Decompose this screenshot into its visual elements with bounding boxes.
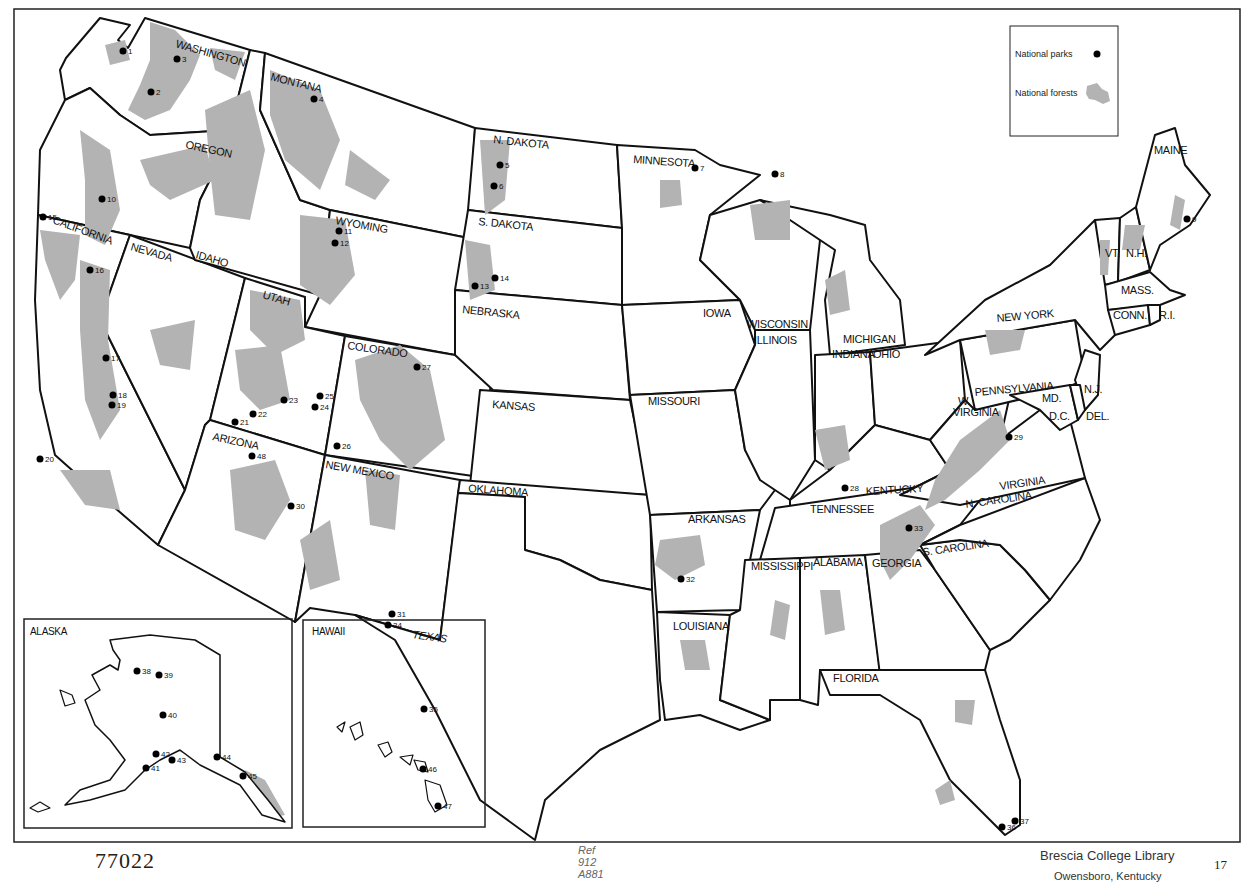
park-number: 30 [296,502,305,511]
park-dot-icon [174,56,181,63]
state-iowa [622,300,755,395]
park-number: 5 [505,161,510,170]
park-dot-icon [148,89,155,96]
park-dot-icon [334,443,341,450]
park-dot-icon [153,751,160,758]
ref-call-number: Ref 912 A881 [578,844,604,880]
label-indiana: INDIANA [832,348,875,360]
label-w-virginia-2: VIRGINIA [953,406,1000,418]
park-number: 26 [342,442,351,451]
park-number: 3 [182,55,187,64]
park-marker: 46 [420,765,438,774]
park-dot-icon [336,228,343,235]
park-number: 37 [1020,817,1029,826]
legend: National parks National forests [1010,26,1118,136]
park-dot-icon [311,96,318,103]
legend-forests-label: National forests [1015,88,1078,98]
park-number: 10 [107,195,116,204]
park-dot-icon [1184,216,1191,223]
label-missouri: MISSOURI [648,395,700,407]
park-number: 7 [700,164,705,173]
park-number: 4 [319,95,324,104]
park-dot-icon [103,355,110,362]
park-number: 15 [48,213,57,222]
label-hawaii: HAWAII [312,626,345,637]
park-number: 22 [258,410,267,419]
park-number: 45 [248,772,257,781]
park-dot-icon [87,267,94,274]
park-number: 34 [393,621,402,630]
alaska-inset: ALASKA [24,619,292,828]
park-dot-icon [999,824,1006,831]
park-dot-icon [497,162,504,169]
label-florida: FLORIDA [833,672,880,684]
label-mississippi: MISSISSIPPI [751,560,813,572]
park-number: 19 [117,401,126,410]
park-dot-icon [312,404,319,411]
park-number: 28 [850,484,859,493]
park-dot-icon [250,411,257,418]
park-number: 39 [164,671,173,680]
park-number: 20 [45,455,54,464]
park-dot-icon [420,766,427,773]
park-number: 1 [128,47,133,56]
park-dot-icon [288,503,295,510]
park-dot-icon [414,364,421,371]
park-dot-icon [99,196,106,203]
park-number: 29 [1014,433,1023,442]
park-dot-icon [109,402,116,409]
label-wisconsin: WISCONSIN [747,318,808,330]
park-number: 13 [480,282,489,291]
park-number: 17 [111,354,120,363]
park-dot-icon [678,576,685,583]
park-dot-icon [134,668,141,675]
park-dot-icon [472,283,479,290]
park-dot-icon [317,393,324,400]
state-alaska [65,635,285,822]
label-alaska: ALASKA [30,626,68,637]
label-massachusetts: MASS. [1121,284,1154,296]
park-dot-icon [240,773,247,780]
park-dot-icon [160,712,167,719]
park-number: 32 [686,575,695,584]
park-dot-icon [169,757,176,764]
library-city: Owensboro, Kentucky [1054,870,1162,882]
park-dot-icon [120,48,127,55]
park-number: 33 [914,524,923,533]
park-number: 27 [422,363,431,372]
state-florida [820,670,1020,835]
park-number: 12 [340,239,349,248]
page-number: 17 [1214,857,1227,873]
park-dot-icon [156,672,163,679]
park-number: 2 [156,88,161,97]
park-number: 35 [429,705,438,714]
label-dc: D.C. [1049,410,1070,422]
park-dot-icon [385,622,392,629]
label-iowa: IOWA [703,307,732,319]
park-dot-icon [772,171,779,178]
park-number: 21 [240,418,249,427]
park-dot-icon [492,275,499,282]
park-number: 18 [118,391,127,400]
park-marker: 43 [169,756,187,765]
label-new-jersey: N.J. [1084,383,1103,395]
park-number: 14 [500,274,509,283]
park-dot-icon [421,706,428,713]
park-dot-icon [1006,434,1013,441]
us-national-parks-forests-map: WASHINGTON OREGON CALIFORNIA NEVADA IDAH… [0,0,1256,894]
park-number: 8 [780,170,785,179]
park-number: 40 [168,711,177,720]
label-michigan: MICHIGAN [843,333,896,345]
park-number: 41 [151,764,160,773]
park-dot-icon [692,165,699,172]
park-number: 43 [177,756,186,765]
park-dot-icon [842,485,849,492]
park-number: 6 [499,182,504,191]
library-stamp: Brescia College Library [1040,848,1174,863]
park-dot-icon [110,392,117,399]
label-rhode-island: R.I. [1159,309,1175,321]
park-dot-icon [143,765,150,772]
label-maryland: MD. [1042,392,1062,404]
park-marker: 20 [37,455,55,464]
catalog-number: 77022 [95,848,155,874]
